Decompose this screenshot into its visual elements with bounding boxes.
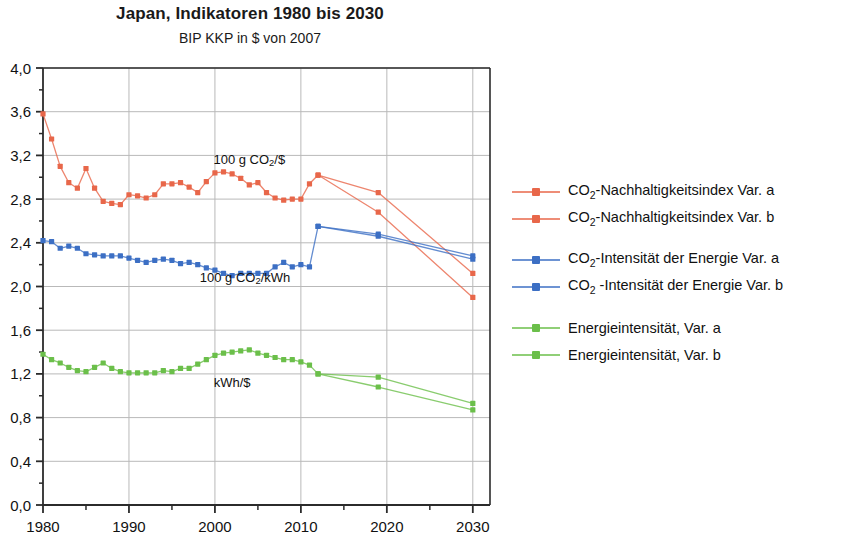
x-tick-label: 2020 [370, 518, 403, 535]
x-tick-label: 2030 [456, 518, 489, 535]
y-tick-label: 2,0 [10, 278, 31, 295]
series-marker [118, 202, 123, 207]
series-marker [470, 271, 475, 276]
series-marker [307, 363, 312, 368]
legend-item-co2-intensitaet-var-a[interactable]: CO2-Intensität der Energie Var. a [512, 246, 852, 273]
series-marker [75, 246, 80, 251]
series-marker [178, 180, 183, 185]
plot-area: 0,00,40,81,21,62,02,42,83,23,64,01980199… [0, 55, 510, 535]
legend-swatch-icon [512, 320, 560, 336]
legend-swatch-icon [512, 211, 560, 227]
legend-group-1: CO2-Intensität der Energie Var. aCO2 -In… [512, 246, 852, 300]
series-marker [144, 370, 149, 375]
series-marker [109, 366, 114, 371]
series-marker [75, 368, 80, 373]
legend-swatch-icon [512, 279, 560, 295]
series-marker [230, 349, 235, 354]
series-marker [238, 348, 243, 353]
series-marker [101, 199, 106, 204]
series-marker [315, 224, 320, 229]
legend-item-co2-intensitaet-var-b[interactable]: CO2 -Intensität der Energie Var. b [512, 273, 852, 300]
series-marker [204, 357, 209, 362]
legend-label: CO2 -Intensität der Energie Var. b [568, 277, 783, 296]
series-marker [264, 190, 269, 195]
series-marker [298, 262, 303, 267]
legend-item-energieintensitaet-var-b[interactable]: Energieintensität, Var. b [512, 341, 852, 368]
series-marker [135, 258, 140, 263]
y-tick-label: 1,2 [10, 365, 31, 382]
series-marker [83, 369, 88, 374]
series-marker [204, 179, 209, 184]
series-marker [144, 260, 149, 265]
y-tick-label: 1,6 [10, 322, 31, 339]
series-marker [187, 260, 192, 265]
legend-label: Energieintensität, Var. a [568, 320, 721, 336]
series-marker [161, 368, 166, 373]
series-marker [66, 243, 71, 248]
series-marker [255, 180, 260, 185]
series-marker [376, 375, 381, 380]
series-marker [470, 401, 475, 406]
series-marker [307, 181, 312, 186]
series-marker [212, 353, 217, 358]
series-marker [212, 170, 217, 175]
legend-item-co2-nachhaltigkeitsindex-var-a[interactable]: CO2-Nachhaltigkeitsindex Var. a [512, 178, 852, 205]
y-tick-label: 0,8 [10, 409, 31, 426]
series-marker [109, 201, 114, 206]
series-marker [92, 365, 97, 370]
series-marker [290, 197, 295, 202]
series-marker [272, 355, 277, 360]
series-marker [221, 169, 226, 174]
series-marker [315, 172, 320, 177]
legend-item-co2-nachhaltigkeitsindex-var-b[interactable]: CO2-Nachhaltigkeitsindex Var. b [512, 205, 852, 232]
series-marker [169, 369, 174, 374]
series-line-4 [43, 350, 473, 404]
line-chart-svg: 0,00,40,81,21,62,02,42,83,23,64,01980199… [0, 55, 510, 535]
series-marker [83, 251, 88, 256]
legend-label: CO2-Nachhaltigkeitsindex Var. b [568, 209, 774, 228]
series-marker [247, 182, 252, 187]
series-marker [66, 365, 71, 370]
series-marker [281, 260, 286, 265]
series-marker [152, 370, 157, 375]
series-marker [298, 359, 303, 364]
series-line-1 [318, 175, 473, 297]
series-marker [75, 186, 80, 191]
series-marker [40, 352, 45, 357]
series-marker [195, 361, 200, 366]
series-marker [298, 197, 303, 202]
series-marker [247, 347, 252, 352]
series-marker [272, 195, 277, 200]
legend-swatch-icon [512, 347, 560, 363]
series-marker [264, 353, 269, 358]
series-marker [152, 192, 157, 197]
page-subtitle: BIP KKP in $ von 2007 [0, 30, 500, 46]
y-tick-label: 4,0 [10, 60, 31, 77]
series-marker [376, 190, 381, 195]
y-tick-label: 2,4 [10, 234, 31, 251]
series-marker [135, 370, 140, 375]
series-marker [135, 193, 140, 198]
series-marker [178, 261, 183, 266]
series-marker [118, 369, 123, 374]
series-marker [307, 264, 312, 269]
page-title: Japan, Indikatoren 1980 bis 2030 [0, 4, 500, 24]
series-marker [230, 171, 235, 176]
legend-swatch-icon [512, 184, 560, 200]
series-marker [238, 176, 243, 181]
x-tick-label: 1980 [26, 518, 59, 535]
chart-legend: CO2-Nachhaltigkeitsindex Var. aCO2-Nachh… [512, 178, 852, 382]
series-marker [66, 180, 71, 185]
series-marker [376, 384, 381, 389]
series-marker [161, 181, 166, 186]
series-marker [376, 234, 381, 239]
y-tick-label: 0,4 [10, 453, 31, 470]
series-marker [470, 295, 475, 300]
legend-item-energieintensitaet-var-a[interactable]: Energieintensität, Var. a [512, 314, 852, 341]
series-marker [470, 257, 475, 262]
series-marker [161, 257, 166, 262]
series-marker [376, 210, 381, 215]
series-marker [281, 198, 286, 203]
series-marker [281, 357, 286, 362]
series-marker [187, 184, 192, 189]
